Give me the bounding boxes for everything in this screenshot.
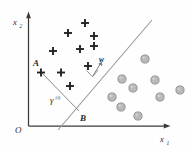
svm-margin-figure: x 2 x 1 O A B w γ (i) <box>0 0 191 150</box>
plus-marker <box>81 19 89 27</box>
plus-marker <box>90 32 98 40</box>
circle-marker <box>176 86 184 94</box>
circle-marker <box>151 76 159 84</box>
circle-marker <box>108 93 116 101</box>
margin-segment-ab <box>40 71 79 111</box>
y-axis-label-subscript: 2 <box>20 23 23 29</box>
circle-marker <box>156 93 164 101</box>
plus-marker <box>76 45 84 53</box>
normal-vector-label: w <box>99 55 105 64</box>
x-axis-label-group: x 1 <box>159 134 170 146</box>
x-axis-label-subscript: 1 <box>167 140 170 146</box>
negative-class-markers <box>108 55 184 120</box>
y-axis-arrowhead <box>26 12 31 19</box>
plus-marker <box>66 82 74 90</box>
margin-label: γ <box>50 95 54 105</box>
margin-label-superscript: (i) <box>56 95 61 100</box>
point-a-label: A <box>32 58 39 68</box>
figure-canvas: x 2 x 1 O A B w γ (i) <box>0 0 191 150</box>
x-axis-label: x <box>159 134 164 144</box>
plus-marker <box>49 47 57 55</box>
circle-marker <box>129 84 137 92</box>
circle-marker <box>118 75 126 83</box>
x-axis-arrowhead <box>164 124 171 129</box>
origin-label: O <box>15 125 22 135</box>
margin-label-group: γ (i) <box>50 95 61 106</box>
axes-group <box>26 12 170 129</box>
y-axis-label: x <box>12 17 17 27</box>
plus-marker <box>64 29 72 37</box>
positive-class-markers <box>37 19 98 90</box>
normal-vector-arrow-shaft <box>93 64 101 77</box>
plus-marker <box>90 42 98 50</box>
circle-marker <box>134 112 142 120</box>
plus-marker <box>84 62 92 70</box>
circle-marker <box>117 103 125 111</box>
plus-marker <box>57 69 65 77</box>
circle-marker <box>141 55 149 63</box>
point-b-label: B <box>79 113 86 123</box>
y-axis-label-group: x 2 <box>12 17 23 29</box>
